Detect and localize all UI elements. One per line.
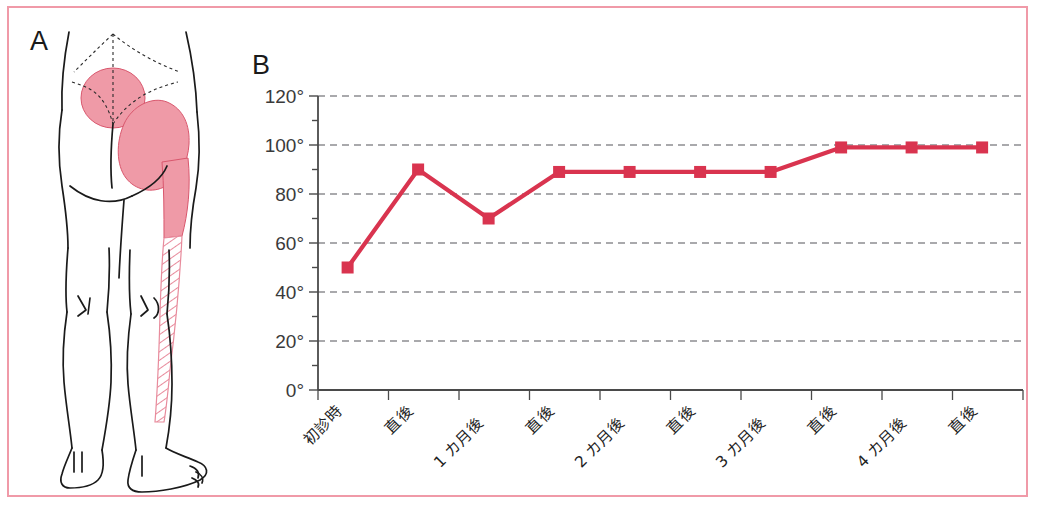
panel-a-label: A [30,26,49,57]
chart-gridlines [318,96,1023,341]
y-tick-label: 20° [275,331,304,352]
y-tick-label: 60° [275,233,304,254]
data-point-marker [765,166,777,178]
y-tick-label: 120° [265,86,304,107]
x-axis-category-labels: 初診時直後1 カ月後直後2 カ月後直後3 カ月後直後4 カ月後直後 [300,402,981,471]
x-category-label: 4 カ月後 [853,414,910,471]
x-category-label: 3 カ月後 [712,414,769,471]
y-tick-label: 80° [275,184,304,205]
x-category-label: 直後 [805,402,840,437]
data-point-marker [694,166,706,178]
data-point-marker [976,141,988,153]
data-point-marker [483,213,495,225]
y-tick-label: 0° [286,380,304,401]
data-point-marker [412,164,424,176]
posterior-thigh-region-shade [162,158,189,238]
data-series-markers [342,141,989,273]
x-category-label: 直後 [382,402,417,437]
x-category-label: 直後 [946,402,981,437]
x-category-label: 直後 [664,402,699,437]
y-tick-label: 100° [265,135,304,156]
panel-a [12,10,248,498]
x-category-label: 2 カ月後 [571,414,628,471]
data-point-marker [835,141,847,153]
x-category-label: 直後 [523,402,558,437]
data-point-marker [624,166,636,178]
x-category-label: 1 カ月後 [430,414,487,471]
data-series-line [348,147,983,267]
data-point-marker [906,141,918,153]
y-axis-tick-labels: 0°20°40°60°80°100°120° [265,86,304,401]
figure-root: A 0°20°40°60°80°100°120° 初診時直後1 カ月後直後2 カ… [0,0,1037,510]
x-category-label: 初診時 [300,402,347,449]
panel-b-label: B [252,50,271,81]
x-axis-ticks [318,390,1023,400]
y-axis-ticks [309,96,318,390]
data-point-marker [342,262,354,274]
data-point-marker [553,166,565,178]
y-tick-label: 40° [275,282,304,303]
panel-b-chart: 0°20°40°60°80°100°120° 初診時直後1 カ月後直後2 カ月後… [248,40,1033,500]
pain-region-group [81,68,189,422]
